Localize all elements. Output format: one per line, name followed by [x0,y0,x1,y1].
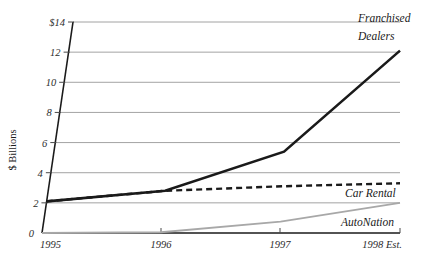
y-tick-label: 2 [33,198,39,209]
series-label-franchised-dealers-line1: Franchised [357,12,411,24]
x-tick-label: 1995 [40,239,61,250]
series-label-autonation: AutoNation [340,216,394,228]
y-tick-label: 8 [46,107,52,118]
y-axis-title: $ Billions [7,129,18,170]
series-label-franchised-dealers-line2: Dealers [357,30,395,42]
series-path-group [42,51,400,233]
y-tick-label: 4 [38,168,44,179]
x-tick-label-group: 1995199619971998 Est. [40,239,402,250]
series-line-franchised-dealers [47,51,400,202]
y-tick-label: 0 [29,228,35,239]
y-tick-label: 10 [46,77,57,88]
x-tick-label: 1998 Est. [362,239,402,250]
line-chart: 024681012$14 1995199619971998 Est. $ Bil… [0,0,435,261]
y-tick-label: 12 [50,47,61,58]
y-tick-label: 6 [42,138,48,149]
series-label-car-rental: Car Rental [345,187,396,199]
chart-container: 024681012$14 1995199619971998 Est. $ Bil… [0,0,435,261]
x-tick-label: 1997 [270,239,292,250]
gridline-group [46,22,400,203]
x-tick-label: 1996 [151,239,173,250]
y-tick-label: $14 [49,17,66,28]
y-tick-label-group: 024681012$14 [29,17,66,239]
